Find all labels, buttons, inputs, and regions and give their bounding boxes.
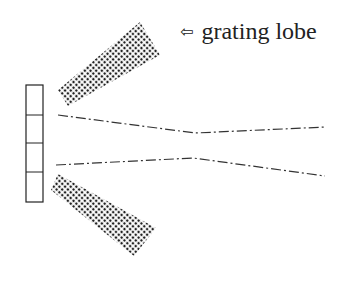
grating-lobe-diagram: ⇦ grating lobe [0, 0, 356, 284]
main-beam-lower-edge [56, 158, 325, 176]
hollow-left-arrow-icon: ⇦ [180, 22, 193, 41]
lower-grating-lobe [51, 174, 156, 256]
grating-lobe-label: ⇦ grating lobe [180, 18, 317, 45]
main-beam-upper-edge [58, 115, 326, 133]
upper-grating-lobe [58, 22, 160, 106]
label-text: grating lobe [201, 18, 316, 45]
array-elements [26, 85, 43, 202]
